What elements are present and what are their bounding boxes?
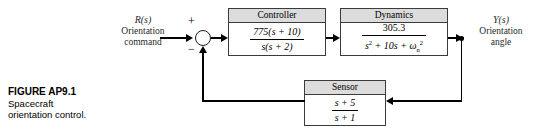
controller-numerator: 775(s + 10) — [250, 26, 303, 40]
controller-block: Controller 775(s + 10) s(s + 2) — [228, 8, 326, 56]
dynamics-transfer-function: 305.3 s2 + 10s + ωn2 — [341, 23, 447, 56]
sensor-block-title: Sensor — [305, 81, 385, 95]
dynamics-denominator-omega-exponent: 2 — [420, 39, 423, 46]
input-signal-description-1: Orientation — [104, 26, 182, 38]
sensor-denominator: s + 1 — [332, 111, 359, 124]
wire-feedback-vertical-left — [202, 52, 204, 102]
input-signal-label: R(s) Orientation command — [104, 14, 182, 49]
summing-junction-minus-sign: − — [188, 44, 195, 54]
figure-number: FIGURE AP9.1 — [8, 86, 128, 98]
output-signal-symbol: Y(s) — [466, 14, 536, 26]
arrowhead-feedback-to-sensor-icon — [386, 97, 393, 105]
summing-junction — [195, 30, 211, 46]
output-signal-label: Y(s) Orientation angle — [466, 14, 536, 49]
figure-container: FIGURE AP9.1 Spacecraft orientation cont… — [0, 0, 539, 134]
summing-junction-plus-sign: + — [188, 16, 195, 26]
output-signal-description-1: Orientation — [466, 26, 536, 38]
sensor-transfer-function: s + 5 s + 1 — [305, 95, 385, 126]
sensor-block: Sensor s + 5 s + 1 — [304, 80, 386, 126]
input-signal-symbol: R(s) — [104, 14, 182, 26]
wire-input-to-sum — [160, 37, 188, 39]
arrowhead-controller-to-dynamics-icon — [333, 34, 340, 42]
wire-feedback-vertical-right — [461, 38, 463, 102]
dynamics-denominator-omega-subscript: n — [417, 47, 420, 54]
output-signal-description-2: angle — [466, 37, 536, 49]
dynamics-denominator-omega: ω — [409, 41, 416, 52]
wire-sensor-to-feedback-corner — [202, 100, 305, 102]
controller-denominator: s(s + 2) — [250, 40, 303, 53]
arrowhead-feedback-to-sum-icon — [199, 46, 207, 53]
figure-caption-line-1: Spacecraft — [8, 98, 128, 110]
arrowhead-sum-to-controller-icon — [221, 34, 228, 42]
dynamics-denominator-middle: + 10s + — [372, 41, 409, 52]
sensor-numerator: s + 5 — [332, 97, 359, 111]
dynamics-denominator: s2 + 10s + ωn2 — [362, 36, 426, 56]
figure-caption: FIGURE AP9.1 Spacecraft orientation cont… — [8, 86, 128, 121]
dynamics-block: Dynamics 305.3 s2 + 10s + ωn2 — [340, 8, 448, 56]
dynamics-block-title: Dynamics — [341, 9, 447, 23]
dynamics-numerator: 305.3 — [362, 22, 426, 36]
wire-feedback-to-sensor — [392, 100, 462, 102]
arrowhead-input-to-sum-icon — [186, 34, 193, 42]
controller-block-title: Controller — [229, 9, 325, 23]
figure-caption-line-2: orientation control. — [8, 109, 128, 121]
controller-transfer-function: 775(s + 10) s(s + 2) — [229, 23, 325, 56]
